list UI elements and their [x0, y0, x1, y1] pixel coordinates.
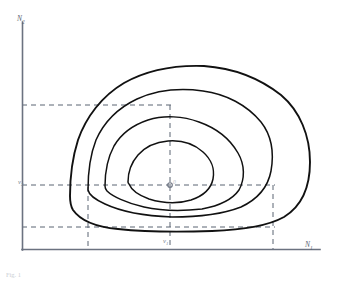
contour-curve-second	[88, 90, 272, 217]
x-axis-label: N1	[305, 240, 313, 251]
y-axis-tick-label: v2	[18, 178, 23, 187]
contour-curve-third	[105, 117, 243, 211]
y-axis-tick-label-subscript: 2	[21, 182, 23, 187]
y-axis-label: N2	[17, 14, 25, 25]
phase-plane-figure: N2 N1 v1 v2 0 Fig. 1	[0, 0, 337, 288]
contour-curves	[70, 66, 310, 232]
equilibrium-point-label: 0	[173, 179, 176, 185]
figure-caption: Fig. 1	[6, 271, 21, 278]
contour-curve-outer	[70, 66, 310, 232]
x-axis-label-subscript: 1	[310, 245, 313, 251]
contour-curve-inner	[128, 141, 214, 203]
x-axis-tick-label: v1	[163, 237, 168, 246]
axes	[22, 22, 320, 250]
contour-plot-canvas	[0, 0, 337, 288]
x-axis-tick-label-subscript: 1	[166, 241, 168, 246]
y-axis-label-subscript: 2	[22, 19, 25, 25]
